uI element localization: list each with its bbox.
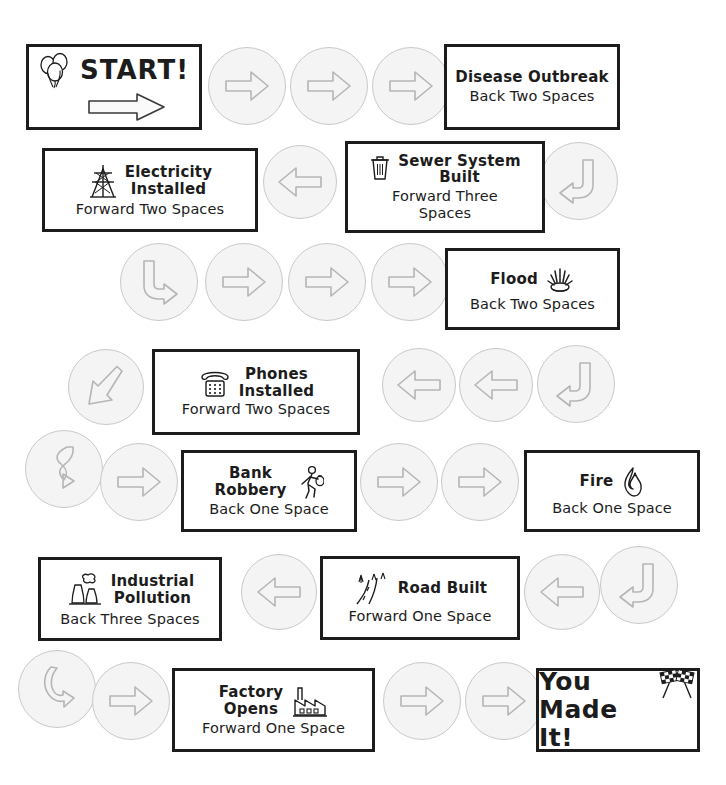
space-title: Bank Robbery	[214, 465, 286, 499]
space-instruction: Forward Three Spaces	[392, 188, 498, 221]
space-instruction: Forward Two Spaces	[76, 201, 224, 218]
right-arrow-icon	[306, 69, 352, 103]
power-tower-icon	[88, 163, 118, 199]
running-thief-icon	[294, 465, 324, 499]
step-circle-right-arrow[interactable]	[100, 443, 178, 521]
space-title: You Made It!	[539, 668, 643, 752]
left-arrow-icon	[473, 368, 519, 402]
turn-down-left-arrow-icon	[557, 158, 601, 204]
step-circle-right-arrow[interactable]	[372, 47, 450, 125]
space-title-row: Road Built	[353, 572, 488, 606]
step-circle-left-arrow[interactable]	[459, 348, 533, 422]
space-instruction: Forward One Space	[349, 608, 492, 625]
road-icon	[353, 572, 391, 606]
step-circle-right-arrow[interactable]	[465, 662, 543, 740]
right-arrow-icon	[224, 69, 270, 103]
space-title-row: Factory Opens	[219, 684, 328, 718]
balloons-icon	[39, 52, 73, 90]
space-instruction: Back One Space	[552, 500, 672, 517]
left-arrow-icon	[539, 575, 585, 609]
space-title-row: Electricity Installed	[88, 163, 212, 199]
left-arrow-icon	[256, 575, 302, 609]
space-phones-installed[interactable]: Phones Installed Forward Two Spaces	[152, 349, 360, 435]
finish-title-row: You Made It!	[539, 668, 697, 752]
right-arrow-icon	[304, 265, 350, 299]
right-arrow-icon	[87, 92, 167, 122]
step-circle-right-arrow[interactable]	[441, 443, 519, 521]
space-title: Industrial Pollution	[111, 573, 195, 607]
space-you-made-it[interactable]: You Made It!	[536, 668, 700, 752]
step-circle-left-arrow[interactable]	[524, 554, 600, 630]
step-circle-diagonal-down-left-arrow[interactable]	[68, 349, 144, 425]
space-sewer-system-built[interactable]: Sewer System Built Forward Three Spaces	[345, 141, 545, 233]
turn-down-right-arrow-icon	[136, 259, 182, 305]
step-circle-right-arrow[interactable]	[92, 662, 170, 740]
curve-down-right-arrow-icon	[37, 665, 77, 713]
space-title: Sewer System Built	[398, 153, 521, 187]
space-title: Electricity Installed	[125, 164, 212, 198]
space-title: Factory Opens	[219, 684, 283, 718]
space-title-row: Bank Robbery	[214, 465, 323, 499]
right-arrow-icon	[457, 465, 503, 499]
step-circle-right-arrow[interactable]	[208, 47, 286, 125]
turn-down-left-arrow-icon	[554, 361, 598, 407]
space-title: Road Built	[398, 580, 488, 597]
curve-down-arrow-icon	[47, 445, 81, 493]
space-title-row: Industrial Pollution	[66, 571, 195, 609]
turn-down-left-arrow-icon	[617, 562, 661, 608]
space-disease-outbreak[interactable]: Disease Outbreak Back Two Spaces	[444, 44, 620, 130]
space-fire[interactable]: Fire Back One Space	[524, 450, 700, 532]
step-circle-right-arrow[interactable]	[288, 243, 366, 321]
right-arrow-icon	[116, 465, 162, 499]
space-title-row: Disease Outbreak	[455, 69, 608, 86]
space-title: Fire	[580, 473, 614, 490]
space-bank-robbery[interactable]: Bank Robbery Back One Space	[181, 450, 357, 532]
space-start[interactable]: START!	[26, 44, 202, 130]
space-factory-opens[interactable]: Factory Opens Forward One Space	[172, 668, 375, 752]
flame-icon	[620, 466, 644, 498]
smokestack-icon	[66, 571, 104, 609]
start-title-row: START!	[39, 52, 189, 90]
space-road-built[interactable]: Road Built Forward One Space	[320, 556, 520, 640]
space-flood[interactable]: Flood Back Two Spaces	[445, 248, 620, 330]
right-arrow-icon	[387, 265, 433, 299]
step-circle-left-arrow[interactable]	[382, 348, 456, 422]
board-game-path: START! Disease Outbreak Back Two Spaces	[0, 0, 726, 785]
left-arrow-icon	[396, 368, 442, 402]
trash-can-icon	[369, 155, 391, 181]
space-instruction: Back One Space	[209, 501, 329, 518]
step-circle-right-arrow[interactable]	[360, 443, 438, 521]
right-arrow-icon	[221, 265, 267, 299]
space-title: START!	[80, 56, 189, 85]
space-instruction: Forward Two Spaces	[182, 401, 330, 418]
space-instruction: Back Two Spaces	[470, 88, 595, 105]
space-electricity-installed[interactable]: Electricity Installed Forward Two Spaces	[42, 148, 258, 232]
space-instruction: Back Two Spaces	[470, 296, 595, 313]
right-arrow-icon	[388, 69, 434, 103]
right-arrow-icon	[481, 684, 527, 718]
step-circle-right-arrow[interactable]	[383, 662, 461, 740]
step-circle-right-arrow[interactable]	[290, 47, 368, 125]
checkered-flags-icon	[657, 670, 697, 702]
step-circle-turn-down-left-arrow[interactable]	[537, 345, 615, 423]
step-circle-right-arrow[interactable]	[371, 243, 449, 321]
step-circle-left-arrow[interactable]	[263, 145, 337, 219]
space-title: Flood	[490, 271, 538, 288]
step-circle-left-arrow[interactable]	[241, 554, 317, 630]
space-title-row: Phones Installed	[198, 366, 314, 400]
space-industrial-pollution[interactable]: Industrial Pollution Back Three Spaces	[38, 557, 222, 641]
right-arrow-icon	[399, 684, 445, 718]
right-arrow-icon	[108, 684, 154, 718]
step-circle-turn-down-right-arrow[interactable]	[120, 243, 198, 321]
right-arrow-icon	[376, 465, 422, 499]
step-circle-curve-down-arrow[interactable]	[25, 430, 103, 508]
telephone-icon	[198, 367, 232, 399]
space-title: Phones Installed	[239, 366, 314, 400]
space-title-row: Fire	[580, 466, 645, 498]
step-circle-right-arrow[interactable]	[205, 243, 283, 321]
step-circle-turn-down-left-arrow[interactable]	[540, 142, 618, 220]
space-title: Disease Outbreak	[455, 69, 608, 86]
step-circle-turn-down-left-arrow[interactable]	[600, 546, 678, 624]
step-circle-curve-down-right-arrow[interactable]	[18, 650, 96, 728]
diagonal-down-left-arrow-icon	[84, 365, 128, 409]
